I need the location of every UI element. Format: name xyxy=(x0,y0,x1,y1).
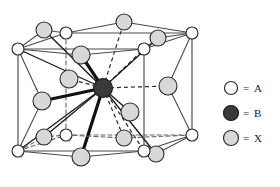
legend-gray-circle-icon xyxy=(224,131,239,146)
atom-a-back-bottom-left xyxy=(60,129,72,141)
atom-a-back-top-right xyxy=(186,27,198,39)
legend-equals-b: = xyxy=(243,107,249,119)
atom-a-back-top-left xyxy=(60,27,72,39)
atom-x-left-face xyxy=(33,92,51,110)
atom-x-outer-bottom-left xyxy=(36,129,52,145)
legend-item-x: = X xyxy=(224,131,263,146)
atom-x-back-face xyxy=(121,103,139,121)
legend-label-b: B xyxy=(254,107,261,119)
atom-x-right-face xyxy=(159,77,177,95)
atom-x-outer-bottom-right xyxy=(148,146,164,162)
legend-filled-circle-icon xyxy=(224,106,239,121)
legend-item-b: = B xyxy=(224,106,262,121)
atom-a-front-top-left xyxy=(12,43,24,55)
atom-a-back-bottom-right xyxy=(186,129,198,141)
atom-a-front-bottom-left xyxy=(12,145,24,157)
atom-x-front-face xyxy=(60,70,78,88)
legend-open-circle-icon xyxy=(225,82,238,95)
atom-x-top-face xyxy=(72,46,90,64)
atom-x-bottom-face xyxy=(72,148,90,166)
legend-label-x: X xyxy=(254,132,262,144)
legend-equals-a: = xyxy=(243,82,249,94)
atom-a-front-top-right xyxy=(138,43,150,55)
atom-a-front-bottom-right xyxy=(138,145,150,157)
atom-b-body-centre xyxy=(94,79,113,98)
atom-x-outer-bottom-mid xyxy=(116,130,132,146)
legend-item-a: = A xyxy=(225,82,263,95)
legend: = A = B = X xyxy=(224,82,263,146)
legend-equals-x: = xyxy=(243,132,249,144)
atom-x-outer-top-centre xyxy=(116,14,132,30)
legend-label-a: A xyxy=(254,82,262,94)
perovskite-unit-cell-figure: = A = B = X xyxy=(0,0,280,187)
atom-x-outer-top-left xyxy=(36,22,52,38)
atom-x-outer-top-right xyxy=(150,30,166,46)
